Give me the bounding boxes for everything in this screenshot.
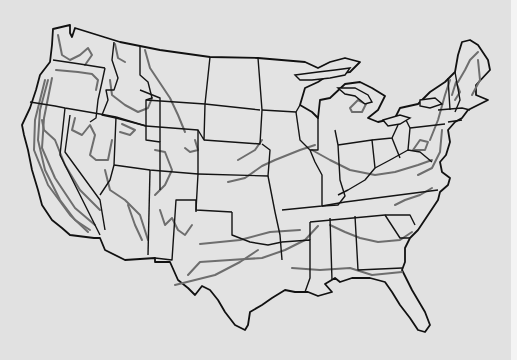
scan-edge-strip: [511, 0, 517, 360]
us-outline: [22, 25, 490, 332]
us-isoline-map: [0, 0, 511, 360]
